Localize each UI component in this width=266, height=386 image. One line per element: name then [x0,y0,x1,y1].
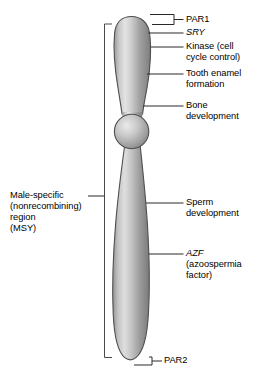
label-sry: SRY [186,27,205,38]
label-azf-line1: (azoospermia [186,259,242,270]
label-msy-line1: Male-specific [10,190,64,201]
y-chromosome-figure: PAR1 SRY Kinase (cell cycle control) Too… [0,0,266,386]
label-azf-line2: factor) [186,270,212,281]
label-par2: PAR2 [164,355,187,366]
label-kinase-line2: cycle control) [186,52,240,63]
label-msy-line4: (MSY) [10,223,36,234]
label-azf: AZF [186,248,203,259]
par2-bracket [134,357,152,365]
label-sperm-line2: development [186,208,239,219]
label-bone-line1: Bone [186,100,208,111]
label-bone-line2: development [186,111,239,122]
label-tooth-enamel-line1: Tooth enamel [186,68,241,79]
label-tooth-enamel-line2: formation [186,79,224,90]
chromosome-centromere [114,114,148,148]
par1-bracket [150,15,174,25]
chromosome-long-arm [113,146,149,360]
chromosome-short-arm [114,17,150,115]
label-par1: PAR1 [186,14,209,25]
label-msy-line2: (nonrecombining) [10,201,82,212]
label-msy-line3: region [10,212,36,223]
label-kinase-line1: Kinase (cell [186,41,233,52]
msy-bracket [105,24,113,358]
label-sperm-line1: Sperm [186,197,213,208]
